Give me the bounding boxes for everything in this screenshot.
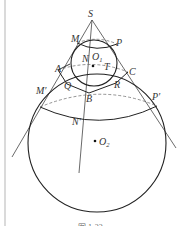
label-N: N [81,53,90,64]
label-B: B [86,93,92,104]
label-R: R [113,79,120,90]
label-A: A [54,63,62,74]
label-M-prime: M′ [35,85,47,96]
label-O2: O2 [99,136,110,148]
label-P-prime: P′ [151,91,161,102]
center-O1-dot [92,65,95,68]
label-Q: Q [64,80,72,91]
label-M: M [70,33,80,44]
geometry-figure: S M P N O1 T A C Q R B M′ P′ N′ O2 图 1-2… [0,0,184,226]
label-O1: O1 [92,51,102,63]
center-O2-dot [94,140,97,143]
label-S: S [88,8,93,19]
tangent-circle-large-back [40,94,157,107]
tangent-circle-large-front [40,106,157,120]
cone-left-generator [12,20,92,157]
label-C: C [129,66,136,77]
label-N-prime: N′ [71,116,82,127]
figure-caption: 图 1-22 [78,223,103,226]
label-P: P [115,37,122,48]
